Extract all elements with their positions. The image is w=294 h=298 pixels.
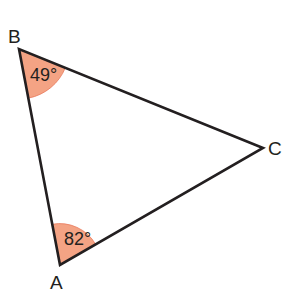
angle-label-a: 82° (64, 229, 91, 249)
vertex-label-c: C (268, 138, 282, 159)
angle-label-b: 49° (30, 65, 57, 85)
triangle-diagram: B A C 49° 82° (0, 0, 294, 298)
vertex-label-b: B (8, 26, 21, 47)
diagram-canvas: B A C 49° 82° (0, 0, 294, 298)
vertex-label-a: A (50, 272, 63, 293)
